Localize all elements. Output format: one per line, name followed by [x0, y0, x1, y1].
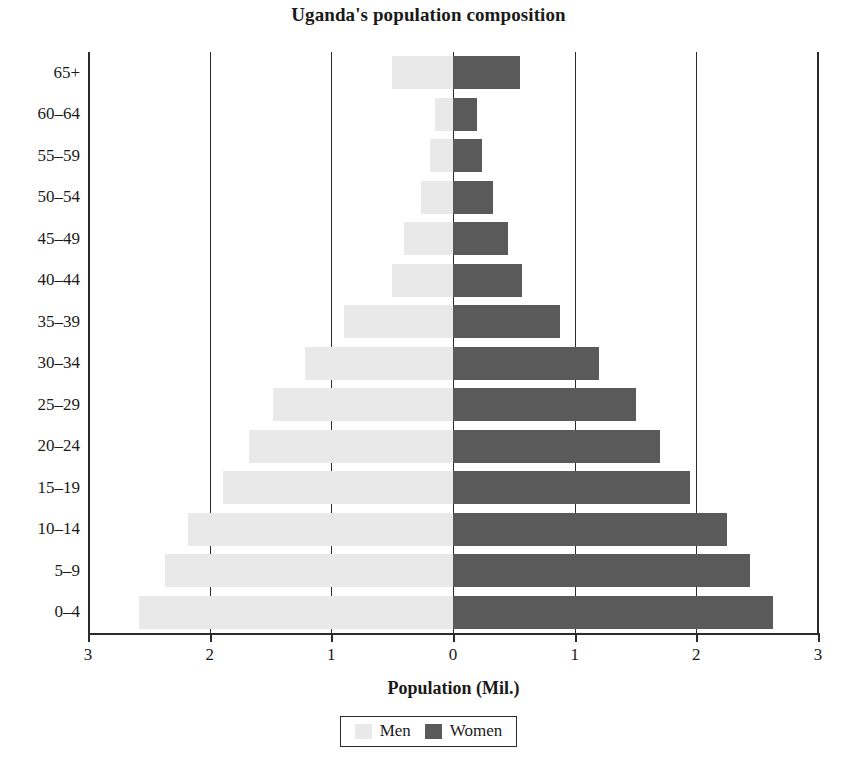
bar-men-30–34 — [305, 347, 453, 380]
bar-row — [88, 430, 818, 463]
bar-men-20–24 — [249, 430, 453, 463]
y-tick-label-30–34: 30–34 — [0, 354, 80, 371]
bar-row — [88, 264, 818, 297]
legend: Men Women — [0, 716, 857, 747]
bar-row — [88, 305, 818, 338]
bar-men-15–19 — [223, 471, 453, 504]
y-tick-label-60–64: 60–64 — [0, 105, 80, 122]
x-tick-4 — [575, 633, 577, 642]
bar-row — [88, 347, 818, 380]
bar-men-0–4 — [139, 596, 453, 629]
x-tick-label-1: 2 — [190, 645, 230, 665]
legend-label-women: Women — [450, 721, 502, 741]
bar-row — [88, 471, 818, 504]
x-tick-1 — [210, 633, 212, 642]
y-axis-tick-labels: 65+60–6455–5950–5445–4940–4435–3930–3425… — [0, 52, 80, 633]
bar-row — [88, 139, 818, 172]
bar-men-35–39 — [344, 305, 454, 338]
x-tick-6 — [818, 633, 820, 642]
y-tick-label-35–39: 35–39 — [0, 313, 80, 330]
bar-rows — [88, 52, 818, 633]
x-tick-3 — [453, 633, 455, 642]
y-tick-label-25–29: 25–29 — [0, 396, 80, 413]
x-tick-label-6: 3 — [798, 645, 838, 665]
legend-label-men: Men — [380, 721, 411, 741]
x-tick-5 — [696, 633, 698, 642]
x-tick-label-4: 1 — [555, 645, 595, 665]
x-tick-label-0: 3 — [68, 645, 108, 665]
y-tick-label-50–54: 50–54 — [0, 188, 80, 205]
bar-row — [88, 513, 818, 546]
bar-row — [88, 554, 818, 587]
bar-women-5–9 — [453, 554, 750, 587]
y-axis-line — [88, 52, 90, 635]
bar-row — [88, 596, 818, 629]
bar-women-60–64 — [453, 98, 477, 131]
y-tick-label-45–49: 45–49 — [0, 230, 80, 247]
legend-box: Men Women — [340, 716, 518, 747]
y-tick-label-15–19: 15–19 — [0, 479, 80, 496]
x-tick-0 — [88, 633, 90, 642]
bar-row — [88, 56, 818, 89]
x-tick-label-3: 0 — [433, 645, 473, 665]
y-tick-label-20–24: 20–24 — [0, 437, 80, 454]
y-tick-label-65+: 65+ — [0, 64, 80, 81]
bar-women-30–34 — [453, 347, 599, 380]
bar-men-60–64 — [435, 98, 453, 131]
legend-swatch-men-icon — [355, 724, 372, 739]
bar-women-25–29 — [453, 388, 636, 421]
bar-row — [88, 222, 818, 255]
chart-title: Uganda's population composition — [0, 4, 857, 26]
bar-women-20–24 — [453, 430, 660, 463]
bar-women-35–39 — [453, 305, 560, 338]
y-tick-label-0–4: 0–4 — [0, 603, 80, 620]
bar-women-40–44 — [453, 264, 522, 297]
bar-men-55–59 — [430, 139, 453, 172]
x-axis-title: Population (Mil.) — [88, 678, 819, 699]
bar-men-5–9 — [165, 554, 453, 587]
population-pyramid-chart: Uganda's population composition 65+60–64… — [0, 0, 857, 775]
bar-men-40–44 — [392, 264, 453, 297]
bar-women-65+ — [453, 56, 520, 89]
bar-women-10–14 — [453, 513, 727, 546]
bar-row — [88, 98, 818, 131]
legend-entry-men[interactable]: Men — [355, 721, 411, 741]
right-axis-line — [817, 52, 819, 635]
y-tick-label-5–9: 5–9 — [0, 562, 80, 579]
bar-women-0–4 — [453, 596, 773, 629]
y-tick-label-10–14: 10–14 — [0, 520, 80, 537]
bar-men-45–49 — [404, 222, 453, 255]
bar-row — [88, 388, 818, 421]
y-tick-label-55–59: 55–59 — [0, 147, 80, 164]
y-tick-label-40–44: 40–44 — [0, 271, 80, 288]
x-tick-2 — [331, 633, 333, 642]
legend-swatch-women-icon — [425, 724, 442, 739]
bar-row — [88, 181, 818, 214]
bar-men-65+ — [392, 56, 453, 89]
bar-women-15–19 — [453, 471, 690, 504]
legend-entry-women[interactable]: Women — [425, 721, 502, 741]
bar-women-45–49 — [453, 222, 508, 255]
bar-women-50–54 — [453, 181, 493, 214]
plot-area — [88, 52, 818, 633]
bar-men-50–54 — [421, 181, 453, 214]
bar-men-25–29 — [273, 388, 453, 421]
x-tick-label-5: 2 — [676, 645, 716, 665]
bar-men-10–14 — [188, 513, 453, 546]
bar-women-55–59 — [453, 139, 482, 172]
x-tick-label-2: 1 — [311, 645, 351, 665]
